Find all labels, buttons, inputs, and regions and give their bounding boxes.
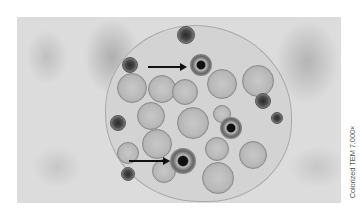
ringed-body	[220, 117, 242, 139]
pale-body	[137, 102, 165, 130]
dark-body	[177, 26, 195, 44]
pale-body	[117, 73, 147, 103]
dark-body	[271, 112, 283, 124]
pale-body	[202, 162, 234, 194]
pale-body	[205, 137, 229, 161]
dark-body	[122, 57, 138, 73]
ringed-body	[170, 148, 196, 174]
pale-body	[172, 79, 198, 105]
micrograph-image	[17, 17, 341, 203]
ringed-body	[190, 54, 212, 76]
pale-body	[177, 107, 209, 139]
pale-body	[242, 65, 274, 97]
pale-body	[207, 69, 237, 99]
figure-caption: Colorized TEM 7,000×	[348, 126, 357, 199]
dark-body	[121, 167, 135, 181]
pale-body	[239, 141, 267, 169]
dark-body	[110, 115, 126, 131]
arrow-upper	[148, 66, 182, 68]
dark-body	[255, 93, 271, 109]
pale-body	[142, 129, 172, 159]
arrow-lower	[129, 160, 165, 162]
